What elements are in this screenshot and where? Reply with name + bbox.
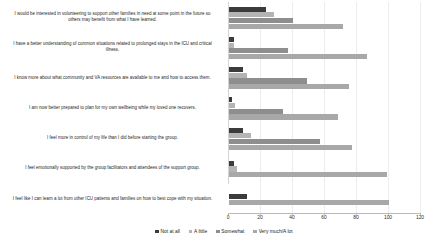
- legend-swatch-icon: [216, 230, 219, 233]
- category-label: I have a better understanding of common …: [2, 32, 220, 62]
- category-label: I am now better prepared to plan for my …: [2, 93, 220, 123]
- chart-category-row: I feel like I can learn a lot from other…: [0, 184, 448, 214]
- bar-very-much-a-lot: [229, 145, 352, 150]
- legend-item[interactable]: Somewhat: [216, 229, 244, 234]
- bar-not-at-all: [229, 37, 234, 42]
- bar-a-little: [229, 133, 251, 138]
- bar-group: [229, 123, 448, 153]
- x-tick-label: 0: [227, 215, 230, 220]
- bar-a-little: [229, 73, 247, 78]
- chart-legend: Not at allA littleSomewhatVery much/A lo…: [0, 229, 448, 234]
- x-axis-ticks: 020406080100120: [228, 215, 420, 225]
- bar-very-much-a-lot: [229, 114, 338, 119]
- bar-very-much-a-lot: [229, 54, 367, 59]
- bar-not-at-all: [229, 67, 243, 72]
- bar-a-little: [229, 12, 274, 17]
- bar-very-much-a-lot: [229, 84, 349, 89]
- bar-group: [229, 63, 448, 93]
- legend-item[interactable]: A little: [189, 229, 207, 234]
- bar-a-little: [229, 43, 234, 48]
- bar-very-much-a-lot: [229, 24, 343, 29]
- legend-swatch-icon: [253, 230, 256, 233]
- chart-category-row: I know more about what community and VA …: [0, 63, 448, 93]
- bar-very-much-a-lot: [229, 172, 387, 177]
- bar-somewhat: [229, 109, 283, 114]
- bar-somewhat: [229, 78, 307, 83]
- legend-label: Not at all: [161, 229, 180, 234]
- survey-bar-chart: I would be interested in volunteering to…: [0, 0, 448, 244]
- legend-item[interactable]: Not at all: [155, 229, 180, 234]
- bar-not-at-all: [229, 161, 234, 166]
- bar-somewhat: [229, 139, 320, 144]
- x-tick-label: 100: [384, 215, 392, 220]
- bar-group: [229, 2, 448, 32]
- chart-category-row: I am now better prepared to plan for my …: [0, 93, 448, 123]
- bar-somewhat: [229, 48, 288, 53]
- chart-category-row: I would be interested in volunteering to…: [0, 2, 448, 32]
- chart-category-row: I have a better understanding of common …: [0, 32, 448, 62]
- bar-not-at-all: [229, 7, 266, 12]
- chart-category-row: I feel emotionally supported by the grou…: [0, 153, 448, 183]
- legend-label: Very much/A lot: [259, 229, 293, 234]
- legend-item[interactable]: Very much/A lot: [253, 229, 292, 234]
- x-tick-label: 20: [257, 215, 262, 220]
- bar-not-at-all: [229, 97, 232, 102]
- x-tick-label: 80: [353, 215, 358, 220]
- x-tick-label: 120: [416, 215, 424, 220]
- bar-group: [229, 184, 448, 214]
- legend-swatch-icon: [155, 230, 158, 233]
- category-label: I know more about what community and VA …: [2, 63, 220, 93]
- x-tick-label: 60: [321, 215, 326, 220]
- category-label: I feel emotionally supported by the grou…: [2, 153, 220, 183]
- bar-not-at-all: [229, 128, 243, 133]
- category-label: I feel more in control of my life than I…: [2, 123, 220, 153]
- bar-a-little: [229, 103, 235, 108]
- legend-label: A little: [194, 229, 207, 234]
- bar-not-at-all: [229, 194, 247, 199]
- x-tick-label: 40: [289, 215, 294, 220]
- bar-group: [229, 32, 448, 62]
- legend-swatch-icon: [189, 230, 192, 233]
- category-label: I feel like I can learn a lot from other…: [2, 184, 220, 214]
- bar-very-much-a-lot: [229, 200, 389, 205]
- bar-somewhat: [229, 18, 293, 23]
- category-rows: I would be interested in volunteering to…: [0, 2, 448, 214]
- category-label: I would be interested in volunteering to…: [2, 2, 220, 32]
- plot-area: I would be interested in volunteering to…: [0, 0, 448, 214]
- bar-group: [229, 153, 448, 183]
- bar-a-little: [229, 166, 237, 171]
- bar-group: [229, 93, 448, 123]
- legend-label: Somewhat: [221, 229, 244, 234]
- chart-category-row: I feel more in control of my life than I…: [0, 123, 448, 153]
